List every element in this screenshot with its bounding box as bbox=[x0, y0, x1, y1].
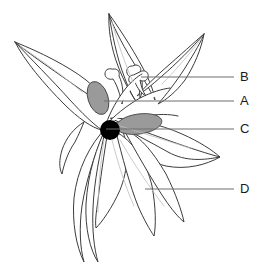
label-a: A bbox=[240, 94, 249, 107]
petal-group bbox=[15, 14, 220, 262]
flower-illustration bbox=[0, 0, 259, 273]
label-c: C bbox=[240, 122, 249, 135]
label-d: D bbox=[240, 182, 249, 195]
sepal-left bbox=[60, 122, 84, 174]
label-b: B bbox=[240, 70, 249, 83]
flower-diagram: B A C D bbox=[0, 0, 259, 273]
ovary bbox=[100, 120, 120, 140]
